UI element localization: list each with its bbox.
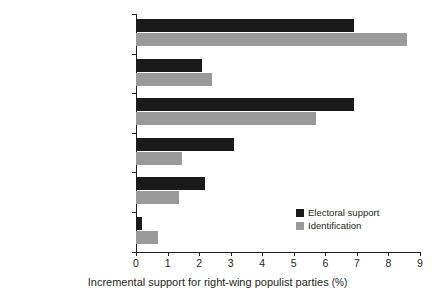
- x-axis-tick: [199, 252, 200, 256]
- x-axis-title-text: Incremental support for right-wing popul…: [88, 276, 329, 288]
- bar-electoral-support: [136, 59, 202, 72]
- y-axis-tick: [132, 54, 136, 55]
- y-axis-tick: [132, 212, 136, 213]
- bar-identification: [136, 231, 158, 244]
- x-axis-tick-label: 1: [158, 257, 178, 269]
- bar-electoral-support: [136, 98, 354, 111]
- bar-group: Conservative ideology: [136, 14, 420, 54]
- legend-item: Electoral support: [296, 206, 379, 219]
- x-axis-tick: [168, 252, 169, 256]
- bar-group: Anti-EU sentiment: [136, 54, 420, 94]
- bar-electoral-support: [136, 138, 234, 151]
- x-axis-tick-label: 2: [189, 257, 209, 269]
- x-axis-title-unit: (%): [332, 277, 348, 288]
- x-axis-tick-label: 6: [315, 257, 335, 269]
- bar-identification: [136, 112, 316, 125]
- x-axis-tick: [294, 252, 295, 256]
- chart-legend: Electoral supportIdentification: [296, 206, 379, 232]
- legend-label: Identification: [308, 219, 361, 232]
- legend-label: Electoral support: [308, 206, 379, 219]
- y-axis-tick: [132, 93, 136, 94]
- x-axis-tick-label: 5: [284, 257, 304, 269]
- x-axis-tick-label: 8: [378, 257, 398, 269]
- x-axis-tick: [262, 252, 263, 256]
- bar-group: Political distrust: [136, 133, 420, 173]
- bar-identification: [136, 73, 212, 86]
- x-axis-tick-label: 4: [252, 257, 272, 269]
- legend-swatch-icon: [296, 222, 304, 230]
- x-axis-tick: [325, 252, 326, 256]
- x-axis-tick-label: 9: [410, 257, 430, 269]
- bar-chart-figure: Conservative ideologyAnti-EU sentimentAn…: [0, 0, 435, 303]
- x-axis-tick: [357, 252, 358, 256]
- bar-identification: [136, 152, 182, 165]
- x-axis-tick-label: 3: [221, 257, 241, 269]
- x-axis-title: Incremental support for right-wing popul…: [0, 276, 435, 288]
- bar-identification: [136, 33, 407, 46]
- bar-group: Anti-immigrant sentiment: [136, 93, 420, 133]
- bar-electoral-support: [136, 19, 354, 32]
- x-axis-line: [136, 252, 421, 253]
- y-axis-tick: [132, 133, 136, 134]
- x-axis-tick-label: 7: [347, 257, 367, 269]
- bar-electoral-support: [136, 177, 205, 190]
- x-axis-tick: [388, 252, 389, 256]
- legend-swatch-icon: [296, 209, 304, 217]
- x-axis-tick-label: 0: [126, 257, 146, 269]
- x-axis-tick: [231, 252, 232, 256]
- y-axis-tick: [132, 172, 136, 173]
- x-axis-tick: [136, 252, 137, 256]
- x-axis-tick: [420, 252, 421, 256]
- bar-electoral-support: [136, 217, 142, 230]
- bar-identification: [136, 191, 179, 204]
- y-axis-tick: [132, 14, 136, 15]
- legend-item: Identification: [296, 219, 379, 232]
